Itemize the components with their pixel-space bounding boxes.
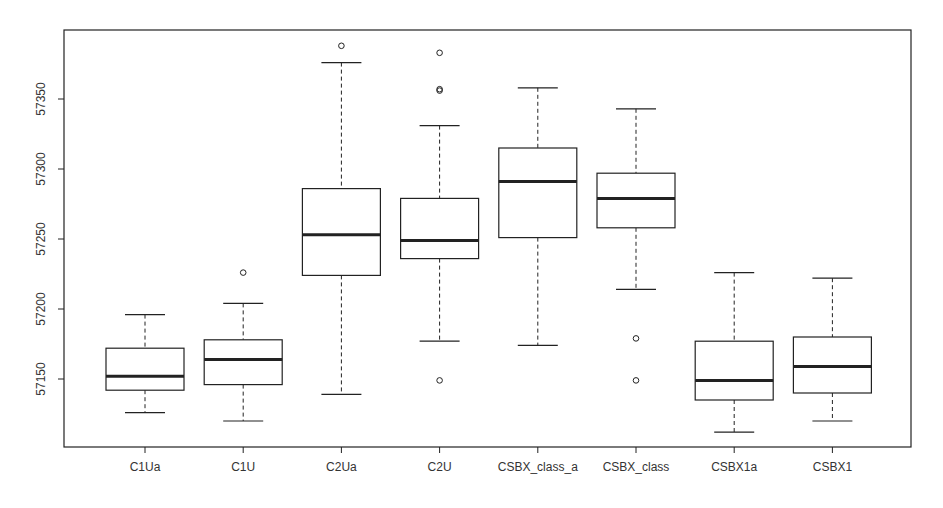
y-tick-label: 57300	[34, 152, 48, 186]
x-tick-label: CSBX1a	[711, 460, 757, 474]
x-tick-label: C1U	[231, 460, 255, 474]
outlier-point	[437, 378, 443, 384]
y-tick-label: 57200	[34, 292, 48, 326]
outlier-point	[633, 378, 639, 384]
x-tick-label: C2U	[428, 460, 452, 474]
iqr-box	[106, 348, 184, 390]
box-c1ua	[106, 315, 184, 413]
box-csbx1	[793, 278, 871, 421]
y-tick-label: 57350	[34, 82, 48, 116]
y-tick-label: 57150	[34, 362, 48, 396]
iqr-box	[204, 340, 282, 385]
box-c1u	[204, 270, 282, 421]
iqr-box	[597, 173, 675, 228]
box-csbx-class	[597, 109, 675, 383]
x-axis: C1UaC1UC2UaC2UCSBX_class_aCSBX_classCSBX…	[130, 447, 853, 474]
iqr-box	[695, 341, 773, 400]
x-tick-label: C1Ua	[130, 460, 161, 474]
outlier-point	[339, 43, 345, 49]
x-tick-label: CSBX_class	[603, 460, 670, 474]
x-tick-label: CSBX1	[813, 460, 853, 474]
iqr-box	[302, 189, 380, 276]
outlier-point	[633, 336, 639, 342]
boxplot-chart: 5715057200572505730057350C1UaC1UC2UaC2UC…	[0, 0, 943, 508]
iqr-box	[401, 198, 479, 258]
plot-frame	[64, 30, 911, 447]
y-axis: 5715057200572505730057350	[34, 82, 64, 396]
box-csbx1a	[695, 273, 773, 433]
outlier-point	[437, 50, 443, 56]
box-c2ua	[302, 43, 380, 394]
y-tick-label: 57250	[34, 222, 48, 256]
box-c2u	[401, 50, 479, 383]
box-csbx-class-a	[499, 88, 577, 346]
chart-canvas: 5715057200572505730057350C1UaC1UC2UaC2UC…	[0, 0, 943, 508]
iqr-box	[499, 148, 577, 238]
x-tick-label: C2Ua	[326, 460, 357, 474]
outlier-point	[240, 270, 246, 276]
x-tick-label: CSBX_class_a	[498, 460, 578, 474]
